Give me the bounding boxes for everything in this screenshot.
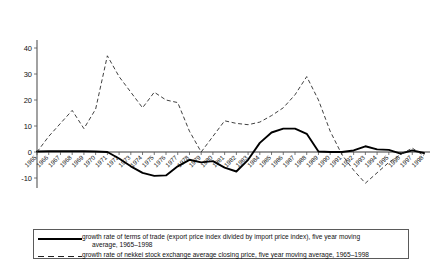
x-tick-label: 1995 [375,153,390,168]
chart-figure: 403020100-101965196619671968196919701971… [0,0,440,278]
x-tick-label: 1996 [387,153,402,168]
x-tick-label: 1998 [410,153,425,168]
x-tick-label: 1967 [46,153,61,168]
dashed-line-sample [38,256,82,257]
legend-label-terms-of-trade: growth rate of terms of trade (export pr… [82,233,408,250]
x-tick-label: 1997 [398,153,413,168]
x-tick-label: 1982 [222,153,237,168]
x-tick-label: 1969 [70,153,85,168]
y-tick-label: 20 [24,96,32,105]
legend-label-line2: average, 1965–1998 [82,241,405,249]
x-tick-label: 1965 [23,153,38,168]
x-tick-label: 1991 [328,153,343,168]
x-tick-label: 1968 [58,153,73,168]
x-tick-label: 1990 [316,153,331,168]
chart-legend: growth rate of terms of trade (export pr… [33,229,409,259]
x-tick-label: 1970 [82,153,97,168]
x-tick-label: 1987 [281,153,296,168]
legend-label-line1: growth rate of terms of trade (export pr… [82,233,360,240]
y-tick-label: -10 [21,174,32,183]
x-tick-label: 1971 [93,153,108,168]
x-tick-label: 1975 [140,153,155,168]
x-tick-label: 1988 [293,153,308,168]
legend-item-terms-of-trade: growth rate of terms of trade (export pr… [34,230,408,250]
y-tick-label: 40 [24,44,32,53]
x-tick-label: 1985 [258,153,273,168]
solid-line-sample [38,238,82,242]
y-tick-label: 10 [24,122,32,131]
x-tick-label: 1986 [269,153,284,168]
x-tick-label: 1976 [152,153,167,168]
x-tick-label: 1989 [304,153,319,168]
x-tick-label: 1994 [363,153,378,168]
y-tick-label: 30 [24,70,32,79]
legend-item-nikkei: growth rate of nekkei stock exchange ave… [34,250,408,260]
x-tick-label: 1992 [340,153,355,168]
legend-label-nikkei: growth rate of nekkei stock exchange ave… [82,251,408,259]
x-tick-label: 1993 [351,153,366,168]
